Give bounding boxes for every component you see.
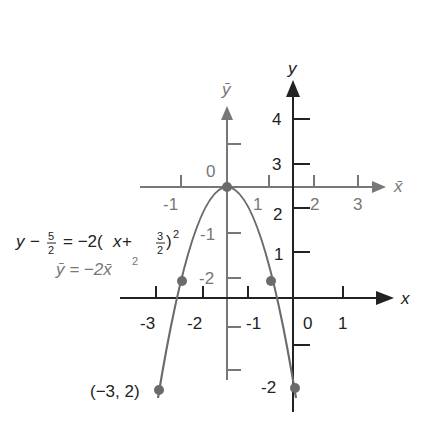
y-tick-neg2: -2 xyxy=(261,378,276,397)
y-tick-2: 2 xyxy=(273,205,282,224)
svg-text:+: + xyxy=(122,232,132,251)
x-axis-label: x xyxy=(400,289,410,308)
y-bar-arrow-icon xyxy=(221,106,233,120)
svg-text:y: y xyxy=(15,232,26,251)
x-tick-neg3: -3 xyxy=(140,314,155,333)
y-bar-tick-neg1: -1 xyxy=(200,225,215,244)
point-left xyxy=(177,276,187,286)
svg-text:= −2(: = −2( xyxy=(63,232,103,251)
svg-text:2: 2 xyxy=(173,228,179,240)
x-bar-tick-neg1: -1 xyxy=(163,195,178,214)
svg-text:3: 3 xyxy=(157,230,163,242)
parabola-diagram: ȳ x̄ 0 -1 1 2 3 -1 -2 y x -3 -2 -1 0 1 4… xyxy=(0,0,428,429)
equation-main: y − 5 2 = −2( x + 3 2 ) 2 xyxy=(15,228,179,256)
y-arrow-icon xyxy=(286,80,300,97)
vertex-point xyxy=(222,182,232,192)
x-tick-0: 0 xyxy=(303,314,312,333)
y-tick-1: 1 xyxy=(274,245,283,264)
y-tick-3: 3 xyxy=(272,155,281,174)
x-tick-neg2: -2 xyxy=(187,314,202,333)
svg-text:−: − xyxy=(30,232,40,251)
x-bar-tick-1: 1 xyxy=(253,195,262,214)
equation-bar: ȳ = −2x̄ 2 xyxy=(55,255,138,279)
point-right xyxy=(266,276,276,286)
y-axis-label: y xyxy=(287,59,298,78)
point-neg3 xyxy=(154,385,164,395)
point-y-intercept xyxy=(290,383,300,393)
svg-text:): ) xyxy=(166,232,172,251)
svg-text:5: 5 xyxy=(48,230,54,242)
x-bar-arrow-icon xyxy=(372,181,386,193)
svg-text:ȳ = −2x̄: ȳ = −2x̄ xyxy=(55,260,112,279)
y-bar-label: ȳ xyxy=(221,80,232,99)
svg-text:2: 2 xyxy=(132,255,138,267)
x-tick-1: 1 xyxy=(338,314,347,333)
point-label-neg3: (−3, 2) xyxy=(90,382,140,401)
y-bar-tick-neg2: -2 xyxy=(199,269,214,288)
x-bar-label: x̄ xyxy=(393,177,403,196)
svg-text:2: 2 xyxy=(48,244,54,256)
x-arrow-icon xyxy=(376,291,394,305)
svg-text:2: 2 xyxy=(157,244,163,256)
x-bar-tick-3: 3 xyxy=(353,195,362,214)
x-tick-neg1: -1 xyxy=(246,314,261,333)
y-tick-4: 4 xyxy=(272,110,281,129)
bar-origin-label: 0 xyxy=(206,162,215,181)
svg-text:x: x xyxy=(112,232,122,251)
bar-axes xyxy=(140,116,376,380)
x-bar-tick-2: 2 xyxy=(310,195,319,214)
